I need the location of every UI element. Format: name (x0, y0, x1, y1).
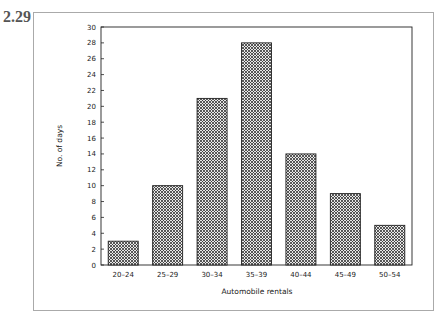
y-tick-label: 6 (92, 214, 97, 222)
bar-50-54 (375, 225, 405, 265)
bar-20-24 (108, 241, 138, 265)
x-tick-label: 35–39 (246, 271, 267, 279)
plot-area: 02468101214161820222426283020–2425–2930–… (87, 24, 412, 280)
y-tick-label: 18 (87, 119, 96, 127)
y-tick-label: 0 (92, 262, 96, 270)
y-tick-label: 28 (87, 39, 96, 47)
y-tick-label: 24 (87, 71, 96, 79)
y-axis-title: No. of days (55, 125, 64, 167)
bar-35-39 (242, 43, 272, 265)
x-tick-label: 40–44 (290, 271, 312, 279)
y-tick-label: 12 (87, 166, 96, 174)
y-tick-label: 20 (87, 103, 96, 111)
y-tick-label: 22 (87, 87, 96, 95)
x-tick-label: 25–29 (157, 271, 178, 279)
y-tick-label: 26 (87, 55, 96, 63)
y-tick-label: 4 (92, 230, 97, 238)
y-tick-label: 10 (87, 182, 96, 190)
x-tick-label: 30–34 (201, 271, 223, 279)
x-tick-label: 20–24 (113, 271, 135, 279)
bar-chart: 02468101214161820222426283020–2425–2930–… (0, 0, 447, 325)
y-tick-label: 8 (92, 198, 96, 206)
bar-30-34 (197, 98, 227, 265)
y-tick-label: 30 (87, 24, 96, 32)
y-tick-label: 16 (87, 135, 96, 143)
x-tick-label: 50–54 (379, 271, 401, 279)
bar-40-44 (286, 154, 316, 265)
bar-25-29 (153, 186, 183, 265)
y-tick-label: 14 (87, 150, 96, 158)
x-axis-title: Automobile rentals (221, 287, 292, 296)
x-tick-label: 45–49 (335, 271, 356, 279)
bar-45-49 (330, 194, 360, 265)
y-tick-label: 2 (92, 246, 96, 254)
